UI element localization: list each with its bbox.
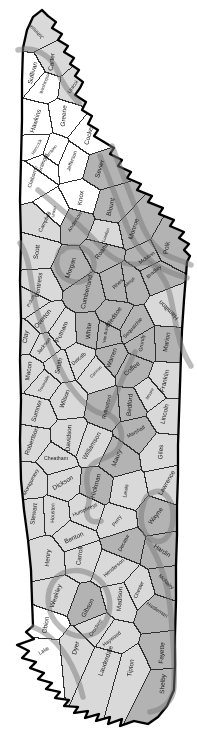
county-label-hamilton: Hamilton — [157, 299, 180, 322]
county-label-blount: Blount — [105, 197, 116, 216]
county-label-sumner: Sumner — [29, 398, 43, 422]
county-label-perry: Perry — [110, 514, 122, 528]
county-labels: JohnsonSullivanCarterWashingtonUnicoiHaw… — [21, 22, 180, 694]
county-label-houston: Houston — [49, 503, 56, 523]
county-label-hawkins: Hawkins — [28, 108, 42, 133]
county-label-montgomery: Montgomery — [21, 467, 40, 496]
county-label-morgan: Morgan — [63, 256, 78, 280]
county-label-lauderdale: Lauderdale — [96, 644, 114, 677]
county-label-obion: Obion — [40, 615, 50, 633]
county-label-hickman: Hickman — [89, 472, 102, 498]
county-label-polk: Polk — [162, 240, 171, 254]
county-label-white: White — [84, 322, 92, 339]
county-label-decatur: Decatur — [117, 533, 131, 552]
county-label-chester: Chester — [132, 580, 145, 599]
county-label-lincoln: Lincoln — [159, 403, 170, 425]
county-label-campbell: Campbell — [37, 211, 52, 233]
county-label-wayne: Wayne — [147, 505, 166, 526]
county-label-gibson: Gibson — [79, 597, 95, 619]
zone-contour-band — [48, 571, 110, 637]
county-label-grundy: Grundy — [137, 334, 146, 352]
county-label-lake: Lake — [37, 645, 50, 656]
county-label-putnam: Putnam — [53, 320, 69, 343]
map-overlay-layer: JohnsonSullivanCarterWashingtonUnicoiHaw… — [0, 0, 197, 731]
county-label-washington: Washington — [38, 71, 51, 94]
county-label-shelby: Shelby — [158, 673, 167, 694]
county-label-benton: Benton — [63, 530, 85, 545]
county-label-jefferson: Jefferson — [65, 150, 78, 172]
county-label-henry: Henry — [43, 548, 53, 566]
county-label-marion: Marion — [161, 331, 171, 352]
county-label-clay: Clay — [21, 329, 31, 344]
county-label-franklin: Franklin — [158, 368, 170, 392]
county-label-stewart: Stewart — [28, 502, 38, 525]
county-label-lewis: Lewis — [121, 483, 129, 498]
county-label-madison: Madison — [115, 586, 124, 611]
county-label-macon: Macon — [23, 360, 33, 380]
county-label-sullivan: Sullivan — [26, 61, 39, 85]
county-label-knox: Knox — [76, 189, 85, 205]
county-label-claiborne: Claiborne — [26, 165, 39, 188]
county-label-rhea: Rhea — [111, 277, 124, 290]
county-label-marshall: Marshall — [126, 424, 146, 439]
county-label-tipton: Tipton — [125, 658, 136, 677]
county-label-trousdale: Trousdale — [37, 374, 51, 393]
county-label-robertson: Robertson — [23, 425, 40, 456]
county-label-carroll: Carroll — [74, 546, 84, 566]
county-label-grainger: Grainger — [36, 152, 49, 173]
county-label-scott: Scott — [31, 244, 40, 260]
county-label-cannon: Cannon — [89, 364, 104, 379]
county-label-wilson: Wilson — [58, 388, 71, 409]
county-label-dyer: Dyer — [70, 640, 81, 656]
county-label-henderson: Henderson — [102, 557, 125, 578]
county-label-dekalb: DeKalb — [70, 351, 87, 367]
zone-contour-band — [112, 146, 191, 265]
county-label-cheatham: Cheatham — [44, 455, 68, 461]
county-label-dickson: Dickson — [51, 473, 75, 491]
county-label-moore: Moore — [144, 387, 155, 401]
county-label-bedford: Bedford — [125, 393, 134, 416]
county-label-williamson: Williamson — [81, 430, 103, 461]
county-label-loudon: Loudon — [101, 227, 111, 243]
county-label-cocke: Cocke — [82, 126, 94, 146]
county-label-hardeman: Hardeman — [146, 600, 170, 618]
county-label-union: Union — [50, 205, 57, 218]
county-label-warren: Warren — [104, 346, 118, 368]
county-label-fayette: Fayette — [157, 642, 166, 664]
county-label-davidson: Davidson — [64, 424, 73, 452]
county-label-van-buren: Van Buren — [101, 322, 110, 343]
county-label-fentress: Fentress — [33, 272, 43, 298]
tennessee-county-map: JohnsonSullivanCarterWashingtonUnicoiHaw… — [0, 0, 197, 731]
county-label-giles: Giles — [156, 444, 164, 459]
county-label-hancock: Hancock — [30, 138, 43, 156]
county-label-meigs: Meigs — [124, 276, 136, 288]
county-label-johnson: Johnson — [26, 22, 44, 40]
county-label-maury: Maury — [110, 447, 124, 467]
county-label-greene: Greene — [59, 105, 68, 127]
county-label-haywood: Haywood — [101, 629, 122, 647]
